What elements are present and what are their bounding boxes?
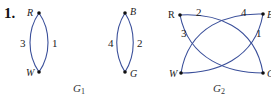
edge-label-1: 1 — [52, 37, 58, 49]
caption-g2: G2 — [213, 82, 225, 96]
vertex-b — [261, 12, 265, 16]
edge-label-4: 4 — [241, 6, 247, 18]
vertex-label-b: B — [130, 6, 136, 17]
graph-diagram: 1. R W 3 1 B G 4 2 R B W — [0, 0, 271, 102]
edge-label-2: 2 — [137, 37, 143, 49]
vertex-label-w: W — [169, 68, 179, 79]
edge-r-w-3 — [30, 13, 39, 72]
vertex-label-w: W — [26, 67, 36, 78]
graph-g1-bg: B G 4 2 — [108, 6, 143, 79]
edge-w-b-1 — [181, 14, 263, 73]
edge-label-4: 4 — [108, 37, 114, 49]
vertex-label-r: R — [168, 9, 175, 20]
vertex-label-r: R — [26, 7, 33, 18]
vertex-g — [261, 71, 265, 75]
edge-label-2: 2 — [196, 6, 202, 18]
vertex-b — [123, 11, 127, 15]
edge-r-w-1 — [39, 13, 48, 72]
edge-b-g-4 — [117, 13, 125, 72]
edge-label-3: 3 — [20, 37, 26, 49]
vertex-w — [37, 70, 41, 74]
vertex-label-b: B — [267, 9, 271, 20]
vertex-r — [37, 11, 41, 15]
problem-number: 1. — [4, 5, 16, 21]
caption-g1: G1 — [73, 82, 85, 96]
vertex-label-g: G — [267, 68, 271, 79]
vertex-r — [178, 13, 182, 17]
vertex-w — [179, 71, 183, 75]
graph-g2: R B W G 2 4 3 1 — [168, 6, 271, 79]
edge-label-3: 3 — [181, 27, 187, 39]
vertex-g — [123, 70, 127, 74]
vertex-label-g: G — [130, 68, 137, 79]
edge-label-1: 1 — [256, 27, 262, 39]
graph-g1-rw: R W 3 1 — [20, 7, 58, 78]
edge-b-g-2 — [125, 13, 133, 72]
